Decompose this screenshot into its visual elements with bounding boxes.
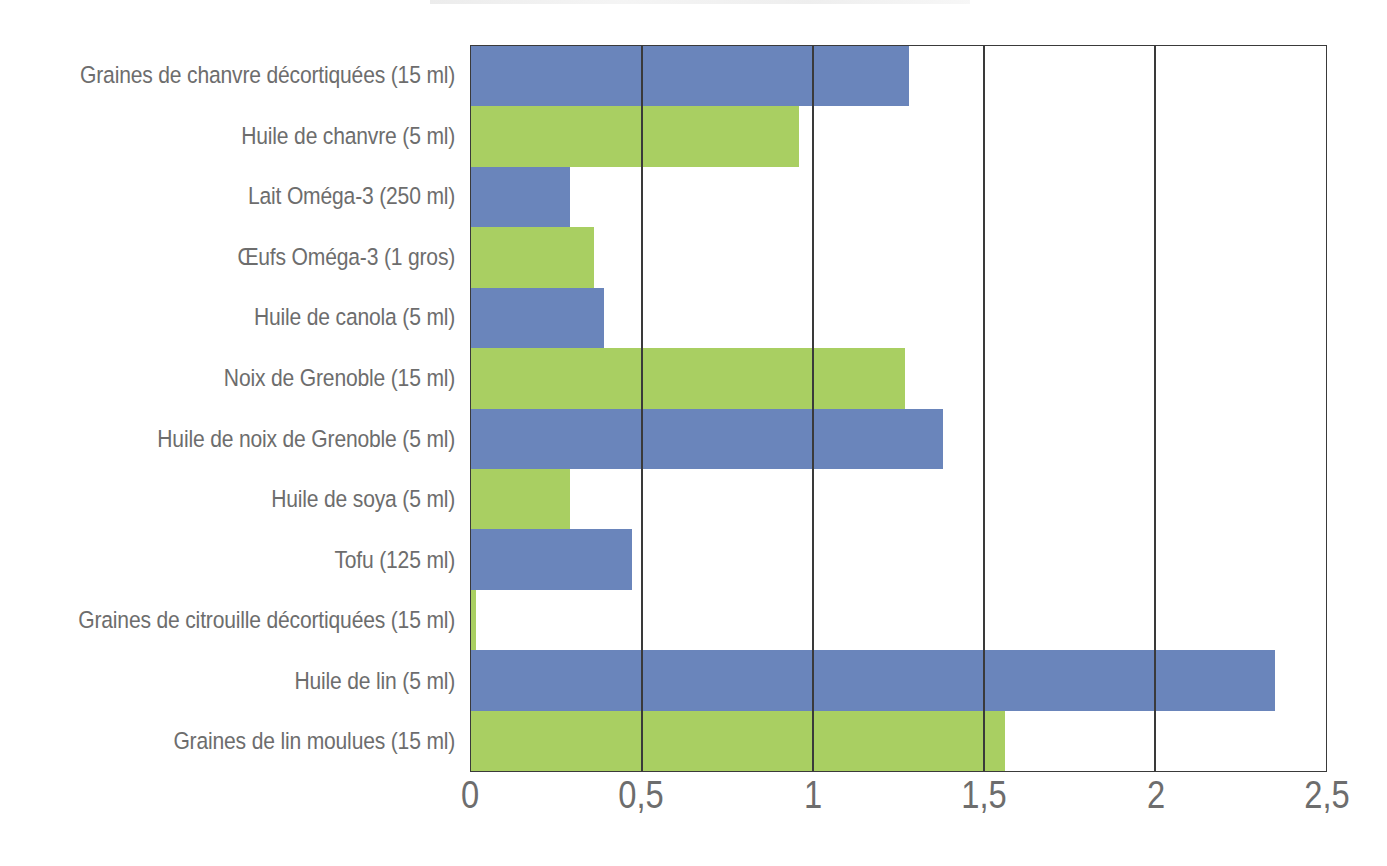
category-label: Noix de Grenoble (15 ml) — [65, 348, 462, 409]
omega3-bar-chart: Graines de chanvre décortiquées (15 ml) … — [0, 0, 1387, 866]
bar-row — [471, 46, 1326, 106]
category-label: Œufs Oméga-3 (1 gros) — [65, 227, 462, 288]
bar-row — [471, 529, 1326, 589]
category-label: Huile de canola (5 ml) — [65, 287, 462, 348]
category-axis-labels: Graines de chanvre décortiquées (15 ml) … — [0, 45, 462, 772]
category-label: Graines de chanvre décortiquées (15 ml) — [65, 45, 462, 106]
x-tick-label: 0 — [461, 776, 479, 814]
bar-row — [471, 650, 1326, 710]
bar — [471, 409, 943, 469]
plot-area — [470, 45, 1327, 772]
category-label: Lait Oméga-3 (250 ml) — [65, 166, 462, 227]
bar — [471, 529, 632, 589]
category-label: Huile de noix de Grenoble (5 ml) — [65, 408, 462, 469]
category-label: Graines de citrouille décortiquées (15 m… — [65, 590, 462, 651]
bar-row — [471, 106, 1326, 166]
category-label: Huile de lin (5 ml) — [65, 651, 462, 712]
bar-row — [471, 288, 1326, 348]
category-label: Huile de chanvre (5 ml) — [65, 106, 462, 167]
bar — [471, 348, 905, 408]
bar — [471, 288, 604, 348]
bar-row — [471, 469, 1326, 529]
bar-row — [471, 409, 1326, 469]
bar — [471, 106, 799, 166]
bar-row — [471, 167, 1326, 227]
bar — [471, 46, 909, 106]
bars-layer — [471, 46, 1326, 771]
bar-row — [471, 348, 1326, 408]
x-tick-label: 1 — [804, 776, 822, 814]
x-tick-label: 0,5 — [619, 776, 664, 814]
bar — [471, 711, 1005, 771]
x-tick-label: 2,5 — [1304, 776, 1349, 814]
bar-row — [471, 711, 1326, 771]
bar-row — [471, 590, 1326, 650]
x-tick-label: 2 — [1147, 776, 1165, 814]
bar — [471, 590, 476, 650]
value-axis-labels: 00,511,522,5 — [470, 776, 1327, 836]
x-tick-label: 1,5 — [961, 776, 1006, 814]
bar — [471, 227, 594, 287]
bar — [471, 650, 1275, 710]
bar — [471, 167, 570, 227]
cropped-title-sliver — [430, 0, 970, 4]
bar-row — [471, 227, 1326, 287]
category-label: Tofu (125 ml) — [65, 530, 462, 591]
category-label: Huile de soya (5 ml) — [65, 469, 462, 530]
bar — [471, 469, 570, 529]
category-label: Graines de lin moulues (15 ml) — [65, 711, 462, 772]
